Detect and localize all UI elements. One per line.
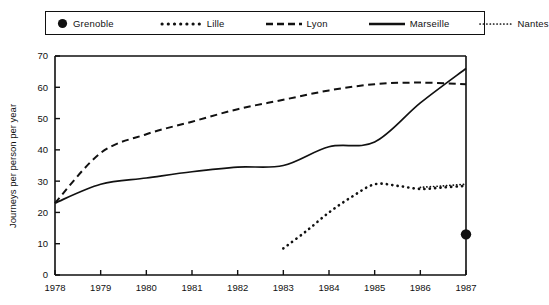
y-tick-label: 60 bbox=[37, 82, 48, 93]
series-line-lyon[interactable] bbox=[55, 83, 466, 203]
x-tick-label: 1984 bbox=[318, 282, 339, 293]
x-tick-label: 1979 bbox=[90, 282, 111, 293]
y-axis-title: Journeys per person per year bbox=[7, 104, 18, 228]
y-tick-label: 40 bbox=[37, 144, 48, 155]
x-tick-label: 1987 bbox=[455, 282, 476, 293]
x-tick-label: 1983 bbox=[273, 282, 294, 293]
data-point-grenoble[interactable] bbox=[461, 229, 471, 239]
x-tick-label: 1981 bbox=[181, 282, 202, 293]
data-series-group bbox=[55, 69, 471, 249]
y-tick-label: 30 bbox=[37, 176, 48, 187]
x-tick-label: 1985 bbox=[364, 282, 385, 293]
y-tick-label: 0 bbox=[43, 269, 48, 280]
series-line-marseille[interactable] bbox=[55, 69, 466, 204]
x-tick-label: 1986 bbox=[410, 282, 431, 293]
x-tick-label: 1980 bbox=[136, 282, 157, 293]
y-tick-label: 10 bbox=[37, 238, 48, 249]
y-tick-label: 70 bbox=[37, 50, 48, 61]
x-tick-label: 1978 bbox=[44, 282, 65, 293]
y-tick-label: 20 bbox=[37, 207, 48, 218]
series-line-nantes[interactable] bbox=[420, 184, 466, 187]
x-axis-ticks: 1978197919801981198219831984198519861987 bbox=[44, 270, 476, 293]
series-line-lille[interactable] bbox=[283, 184, 466, 249]
axis-frame bbox=[55, 56, 466, 275]
legend-label-nantes: Nantes bbox=[517, 18, 548, 29]
x-tick-label: 1982 bbox=[227, 282, 248, 293]
y-tick-label: 50 bbox=[37, 113, 48, 124]
y-axis-ticks: 010203040506070 bbox=[37, 50, 60, 280]
